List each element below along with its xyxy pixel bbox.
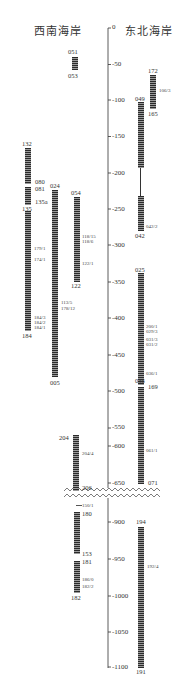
core-label-135a: 135a: [35, 198, 48, 205]
tick-label-200: -200: [112, 170, 125, 177]
core-depth-diagram: 西南海岸 东北海岸: [0, 0, 185, 684]
sample-182-2: 182/2: [82, 584, 93, 589]
core-label-180: 180: [82, 510, 92, 517]
tick-label-1050: -1050: [112, 629, 128, 636]
tick-label-900: -900: [112, 519, 125, 526]
sample-036-1: 036/1: [146, 371, 157, 376]
sample-113-5: 113/5: [61, 300, 72, 305]
core-label-036: 036: [135, 377, 145, 384]
tick-label-350: -350: [112, 279, 125, 286]
core-label-206: 206: [82, 484, 92, 491]
sample-122-1: 122/1: [82, 261, 93, 266]
core-049-upper: [138, 102, 144, 168]
core-label-169: 169: [148, 383, 158, 390]
sample-061-1: 061/1: [146, 448, 157, 453]
sample-029-3: 029/3: [146, 329, 157, 334]
axis-break-lower: [64, 494, 160, 497]
sample-106-3: 106/3: [159, 88, 170, 93]
core-label-191: 191: [136, 668, 146, 675]
tick-label-400: -400: [112, 315, 125, 322]
core-135-184: [25, 211, 31, 331]
sample-179-1: 179/1: [34, 246, 45, 251]
sample-150-1: 150/1: [82, 503, 93, 508]
core-label-024: 024: [50, 182, 60, 189]
core-132-080: [25, 148, 31, 184]
core-180-153: [74, 512, 80, 554]
core-label-051: 051: [68, 48, 78, 55]
core-169-071: [138, 387, 144, 484]
sample-031-2: 031/2: [146, 342, 157, 347]
tick-label-150: -150: [112, 133, 125, 140]
core-049-042-lower: [138, 196, 144, 231]
tick-label-600: -600: [112, 443, 125, 450]
core-label-025: 025: [135, 266, 145, 273]
core-051-053: [72, 57, 78, 70]
tick-label-500: -500: [112, 388, 125, 395]
core-181-182: [74, 561, 80, 593]
core-label-182: 182: [71, 594, 81, 601]
core-label-053: 053: [68, 72, 78, 79]
tick-label-100: -100: [112, 97, 125, 104]
core-label-005: 005: [50, 379, 60, 386]
sample-184-1: 184/1: [34, 325, 45, 330]
sample-204-4: 204/4: [82, 451, 93, 456]
core-label-181: 181: [82, 558, 92, 565]
core-label-153: 153: [82, 550, 92, 557]
core-label-042: 042: [135, 232, 145, 239]
core-025-036: [138, 273, 144, 385]
tick-label-250: -250: [112, 206, 125, 213]
core-label-054: 054: [71, 189, 81, 196]
tick-label-1000: -1000: [112, 593, 128, 600]
core-label-132: 132: [22, 140, 32, 147]
tick-label-0: 0: [112, 24, 116, 31]
core-label-172: 172: [148, 67, 158, 74]
core-049-gap: [140, 168, 141, 196]
tick-label-950: -950: [112, 556, 125, 563]
tick-label-300: -300: [112, 242, 125, 249]
tick-label-1100: -1100: [112, 664, 128, 671]
core-label-204: 204: [59, 434, 69, 441]
core-194-191: [138, 527, 144, 668]
core-204-206: [73, 435, 79, 491]
core-081-135a: [25, 187, 31, 205]
core-label-080: 080: [35, 178, 45, 185]
core-label-122: 122: [71, 282, 81, 289]
core-054-122-lower: [74, 237, 80, 282]
core-024-005: [52, 190, 58, 377]
tick-label-50: -50: [112, 61, 121, 68]
sample-186-0: 186/0: [82, 577, 93, 582]
sample-042-2: 042/2: [146, 224, 157, 229]
sample-192-4: 192/4: [147, 564, 158, 569]
core-172-165: [150, 75, 156, 109]
sample-174-1: 174/1: [34, 257, 45, 262]
core-label-049: 049: [135, 95, 145, 102]
sample-178-12: 178/12: [61, 306, 75, 311]
core-label-081: 081: [35, 185, 45, 192]
tick-label-550: -550: [112, 424, 125, 431]
tick-label-650: -650: [112, 480, 125, 487]
core-label-184: 184: [22, 332, 32, 339]
core-label-071: 071: [148, 479, 158, 486]
tick-label-450: -450: [112, 352, 125, 359]
core-label-165: 165: [148, 110, 158, 117]
core-label-194: 194: [136, 518, 146, 525]
sample-118-6: 118/6: [82, 239, 93, 244]
